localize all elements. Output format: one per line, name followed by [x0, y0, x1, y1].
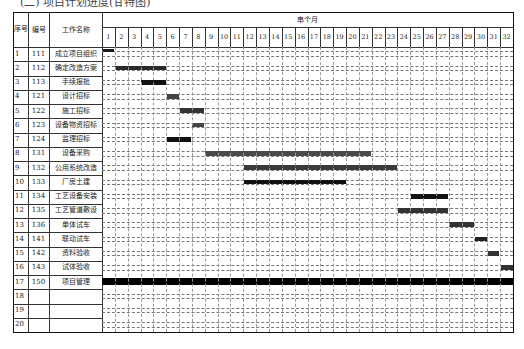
month-header: 10 — [218, 28, 231, 47]
row-code: 136 — [28, 218, 49, 232]
gantt-bar — [475, 237, 487, 242]
month-header: 8 — [192, 28, 205, 47]
month-divider — [410, 27, 411, 47]
month-header: 20 — [346, 28, 359, 47]
row-code: 133 — [28, 175, 49, 189]
row-seq: 8 — [14, 147, 28, 161]
month-header: 5 — [153, 28, 166, 47]
row-code: 135 — [28, 204, 49, 218]
month-header: 15 — [282, 28, 295, 47]
row-task-name: 项目管理 — [49, 275, 102, 289]
month-divider — [218, 27, 219, 47]
row-code — [28, 289, 49, 303]
row-code: 112 — [28, 61, 49, 75]
row-code: 122 — [28, 104, 49, 118]
month-divider — [397, 27, 398, 47]
row-task-name — [49, 289, 102, 303]
month-divider — [487, 27, 488, 47]
grid-dash-vertical — [141, 47, 142, 332]
month-divider — [256, 27, 257, 47]
grid-dash-vertical — [128, 47, 129, 332]
row-task-name: 试体验收 — [49, 261, 102, 275]
month-divider — [192, 27, 193, 47]
month-divider — [282, 27, 283, 47]
month-header: 21 — [359, 28, 372, 47]
row-seq: 9 — [14, 161, 28, 175]
row-seq: 15 — [14, 247, 28, 261]
grid-dash-vertical — [320, 47, 321, 332]
row-seq: 18 — [14, 289, 28, 303]
row-task-name: 资料验收 — [49, 247, 102, 261]
month-divider — [141, 27, 142, 47]
row-code: 142 — [28, 247, 49, 261]
month-header: 26 — [423, 28, 436, 47]
grid-dash-vertical — [500, 47, 501, 332]
row-code — [28, 304, 49, 318]
row-code: 141 — [28, 232, 49, 246]
gantt-bar — [167, 94, 179, 99]
month-header: 9 — [205, 28, 218, 47]
row-task-name: 单体试车 — [49, 218, 102, 232]
gantt-bar — [501, 265, 513, 270]
row-seq: 12 — [14, 204, 28, 218]
month-divider — [462, 27, 463, 47]
month-divider — [359, 27, 360, 47]
row-code: 111 — [28, 47, 49, 61]
month-divider — [205, 27, 206, 47]
grid-dash-vertical — [256, 47, 257, 332]
row-code: 121 — [28, 90, 49, 104]
month-header: 1 — [102, 28, 115, 47]
row-seq: 20 — [14, 318, 28, 332]
grid-dash-vertical — [410, 47, 411, 332]
row-task-name: 监理招标 — [49, 133, 102, 147]
row-seq: 11 — [14, 190, 28, 204]
month-divider — [474, 27, 475, 47]
row-code: 150 — [28, 275, 49, 289]
month-divider — [166, 27, 167, 47]
gantt-table: 序号编号工作名称串个月12345678910111213141516171819… — [13, 12, 514, 333]
row-task-name: 公用系统改造 — [49, 161, 102, 175]
month-divider — [115, 27, 116, 47]
row-task-name: 施工招标 — [49, 104, 102, 118]
header-seq: 序号 — [14, 13, 28, 47]
row-seq: 3 — [14, 76, 28, 90]
row-seq: 19 — [14, 304, 28, 318]
month-header: 24 — [397, 28, 410, 47]
month-header: 2 — [115, 28, 128, 47]
month-header: 7 — [179, 28, 192, 47]
header-divider — [102, 27, 513, 28]
grid-dash-vertical — [436, 47, 437, 332]
grid-dash-vertical — [372, 47, 373, 332]
month-header: 16 — [295, 28, 308, 47]
month-header: 18 — [320, 28, 333, 47]
month-header: 27 — [436, 28, 449, 47]
row-seq: 5 — [14, 104, 28, 118]
grid-dash-vertical — [423, 47, 424, 332]
month-header: 30 — [474, 28, 487, 47]
gantt-bar — [103, 49, 115, 52]
grid-dash-vertical — [153, 47, 154, 332]
month-header: 4 — [141, 28, 154, 47]
row-code: 123 — [28, 118, 49, 132]
month-divider — [128, 27, 129, 47]
row-task-name: 设备采购 — [49, 147, 102, 161]
grid-dash-vertical — [295, 47, 296, 332]
month-header: 29 — [462, 28, 475, 47]
month-divider — [372, 27, 373, 47]
row-seq: 17 — [14, 275, 28, 289]
month-divider — [500, 27, 501, 47]
month-divider — [179, 27, 180, 47]
month-divider — [243, 27, 244, 47]
row-task-name: 设备物资招标 — [49, 118, 102, 132]
row-seq: 10 — [14, 175, 28, 189]
month-header: 6 — [166, 28, 179, 47]
grid-dash-vertical — [166, 47, 167, 332]
row-code: 113 — [28, 76, 49, 90]
month-header: 17 — [308, 28, 321, 47]
gantt-bar — [488, 251, 499, 255]
grid-dash-vertical — [385, 47, 386, 332]
row-seq: 2 — [14, 61, 28, 75]
row-task-name: 厂房土建 — [49, 175, 102, 189]
row-code — [28, 318, 49, 332]
grid-dash-vertical — [359, 47, 360, 332]
